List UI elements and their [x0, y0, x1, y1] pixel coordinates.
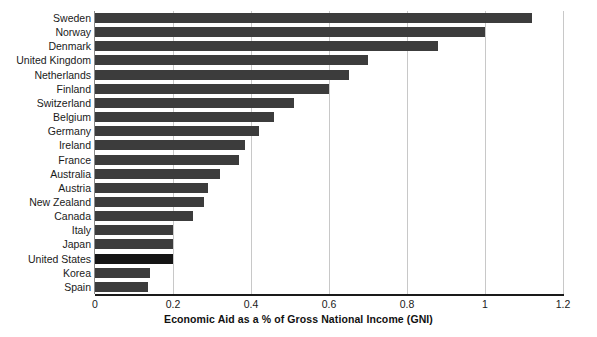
- bar-row: [95, 195, 563, 209]
- bar-row: [95, 25, 563, 39]
- category-label: Canada: [3, 209, 91, 223]
- category-label: Netherlands: [3, 68, 91, 82]
- x-tick-label: 1: [482, 298, 488, 310]
- bar-row: [95, 39, 563, 53]
- bar: [95, 41, 438, 51]
- bar-row: [95, 280, 563, 294]
- category-label: Norway: [3, 25, 91, 39]
- bar-row: [95, 124, 563, 138]
- category-label: Denmark: [3, 39, 91, 53]
- bar-chart: SwedenNorwayDenmarkUnited KingdomNetherl…: [0, 0, 597, 337]
- bar: [95, 183, 208, 193]
- gridline: [563, 11, 564, 294]
- category-label: Belgium: [3, 110, 91, 124]
- bar: [95, 126, 259, 136]
- category-label: United Kingdom: [3, 53, 91, 67]
- x-tick-label: 0.6: [322, 298, 337, 310]
- x-axis-baseline: [95, 294, 564, 296]
- bar: [95, 239, 173, 249]
- x-tick-label: 1.2: [556, 298, 571, 310]
- category-label: Ireland: [3, 138, 91, 152]
- category-label: New Zealand: [3, 195, 91, 209]
- bar: [95, 98, 294, 108]
- category-label: Finland: [3, 82, 91, 96]
- bar: [95, 140, 245, 150]
- category-label: Switzerland: [3, 96, 91, 110]
- bar: [95, 13, 532, 23]
- bar-row: [95, 181, 563, 195]
- x-tick-label: 0.4: [244, 298, 259, 310]
- plot-area: [95, 11, 563, 294]
- x-tick-label: 0: [92, 298, 98, 310]
- bar-row: [95, 110, 563, 124]
- category-label: Spain: [3, 280, 91, 294]
- bar-row: [95, 96, 563, 110]
- category-label: Korea: [3, 266, 91, 280]
- bar: [95, 55, 368, 65]
- x-tick-label: 0.8: [400, 298, 415, 310]
- bar-row: [95, 53, 563, 67]
- bar: [95, 254, 173, 264]
- bar: [95, 268, 150, 278]
- bar-row: [95, 167, 563, 181]
- category-label: Australia: [3, 167, 91, 181]
- bar: [95, 197, 204, 207]
- bar-row: [95, 252, 563, 266]
- bar: [95, 155, 239, 165]
- category-label: Japan: [3, 237, 91, 251]
- bar-row: [95, 153, 563, 167]
- bar-row: [95, 11, 563, 25]
- bar: [95, 225, 173, 235]
- bar: [95, 84, 329, 94]
- bar: [95, 70, 349, 80]
- bar-row: [95, 266, 563, 280]
- bar-row: [95, 82, 563, 96]
- category-label: Italy: [3, 223, 91, 237]
- category-label: Austria: [3, 181, 91, 195]
- category-label: Germany: [3, 124, 91, 138]
- bar-row: [95, 237, 563, 251]
- bar: [95, 211, 193, 221]
- category-label: France: [3, 153, 91, 167]
- category-axis-labels: SwedenNorwayDenmarkUnited KingdomNetherl…: [0, 11, 91, 294]
- bar-row: [95, 209, 563, 223]
- bar: [95, 27, 485, 37]
- category-label: United States: [3, 252, 91, 266]
- bar: [95, 169, 220, 179]
- x-tick-label: 0.2: [166, 298, 181, 310]
- bar-row: [95, 68, 563, 82]
- bar-row: [95, 138, 563, 152]
- x-axis-title: Economic Aid as a % of Gross National In…: [0, 313, 597, 325]
- category-label: Sweden: [3, 11, 91, 25]
- bar: [95, 282, 148, 292]
- bar: [95, 112, 274, 122]
- bar-row: [95, 223, 563, 237]
